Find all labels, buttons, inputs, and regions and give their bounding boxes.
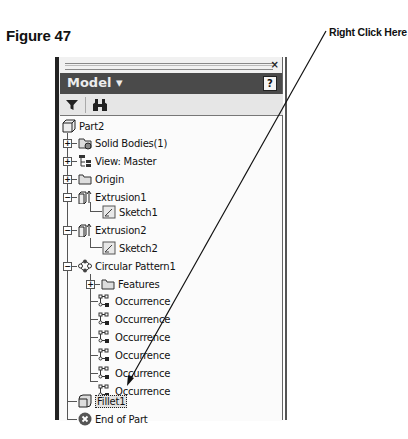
find-icon[interactable] [92,97,108,111]
tree-item-label: Extrusion1 [95,192,146,203]
tree-line [72,179,77,180]
tree-item-label: Features [118,279,159,290]
folder-icon [101,277,115,291]
tree-line [67,401,77,402]
tree-line [90,274,91,382]
tree-item-label: Fillet1 [95,395,127,408]
toolbar-separator [85,97,86,113]
model-tree: Part2 + Solid Bodies(1) + View: Master + [60,115,282,421]
tree-item-label: Sketch1 [119,207,158,218]
tree-item-occurrence[interactable]: Occurrence [98,347,170,363]
tree-line [90,381,98,382]
tree-line [72,197,77,198]
tree-item-label: Sketch2 [119,243,158,254]
sketch-icon [102,205,116,219]
tree-line [95,284,100,285]
tree-item-label: Occurrence [115,332,170,343]
tree-item-extrusion2[interactable]: Extrusion2 [78,222,146,238]
tree-item-fillet1[interactable]: Fillet1 [78,393,127,409]
callout-label: Right Click Here [329,26,407,38]
expand-toggle[interactable]: + [86,280,95,289]
tree-item-origin[interactable]: Origin [78,171,124,187]
tree-item-label: Part2 [79,121,104,132]
occurrence-icon [98,348,112,362]
tree-item-sketch2[interactable]: Sketch2 [102,240,158,256]
fillet-icon [78,394,92,408]
tree-line [72,266,77,267]
collapse-toggle[interactable]: − [63,226,72,235]
tree-item-end-of-part[interactable]: End of Part [78,411,148,427]
tree-line [90,301,98,302]
tree-item-occurrence[interactable]: Occurrence [98,365,170,381]
extrusion-icon [78,190,92,204]
sketch-icon [102,241,116,255]
circular-pattern-icon [78,259,92,273]
tree-line [90,247,102,248]
browser-toolbar [59,94,283,115]
expand-toggle[interactable]: + [63,139,72,148]
collapse-toggle[interactable]: − [63,262,72,271]
tree-item-features[interactable]: Features [101,276,159,292]
tree-line [72,143,77,144]
tree-line [90,373,98,374]
part-icon [62,119,76,133]
tree-item-circular-pattern1[interactable]: Circular Pattern1 [78,258,176,274]
occurrence-icon [98,330,112,344]
filter-icon[interactable] [65,97,79,111]
folder-icon [78,172,92,186]
tree-line [90,319,98,320]
panel-titlebar: Model ▾ ? [60,73,282,94]
tree-item-label: Occurrence [115,296,170,307]
tree-line [72,230,77,231]
tree-item-occurrence[interactable]: Occurrence [98,311,170,327]
expand-toggle[interactable]: + [63,157,72,166]
tree-item-view-master[interactable]: View: Master [78,153,156,169]
tree-item-extrusion1[interactable]: Extrusion1 [78,189,146,205]
tree-item-part2[interactable]: Part2 [62,118,104,134]
figure-label: Figure 47 [6,27,71,44]
tree-item-label: Occurrence [115,368,170,379]
end-of-part-icon [78,412,92,426]
model-browser-panel: × Model ▾ ? [55,57,283,420]
tree-item-label: Occurrence [115,314,170,325]
tree-item-label: Circular Pattern1 [95,261,176,272]
help-button[interactable]: ? [263,76,277,91]
panel-drag-grip[interactable] [65,63,273,70]
tree-line [90,211,102,212]
tree-item-occurrence[interactable]: Occurrence [98,293,170,309]
tree-item-solid-bodies[interactable]: Solid Bodies(1) [78,135,167,151]
model-dropdown[interactable]: Model ▾ [67,75,123,90]
close-button[interactable]: × [271,59,279,71]
tree-line [90,355,98,356]
extrusion-icon [78,223,92,237]
occurrence-icon [98,312,112,326]
tree-item-occurrence[interactable]: Occurrence [98,329,170,345]
tree-item-label: Occurrence [115,350,170,361]
view-icon [78,154,92,168]
tree-line [72,161,77,162]
occurrence-icon [98,366,112,380]
tree-item-label: Solid Bodies(1) [95,138,167,149]
tree-item-label: Origin [95,174,124,185]
tree-item-label: End of Part [95,414,148,425]
tree-item-label: View: Master [95,156,156,167]
tree-item-sketch1[interactable]: Sketch1 [102,204,158,220]
tree-item-label: Extrusion2 [95,225,146,236]
occurrence-icon [98,294,112,308]
tree-line [90,337,98,338]
expand-toggle[interactable]: + [63,175,72,184]
tree-line [67,419,77,420]
collapse-toggle[interactable]: − [63,193,72,202]
solid-bodies-icon [78,136,92,150]
